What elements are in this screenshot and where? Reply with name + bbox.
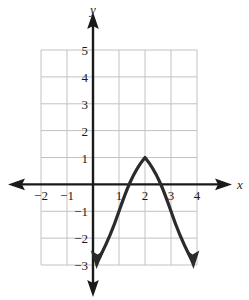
y-tick-label-minus3: −3 bbox=[74, 258, 88, 273]
x-axis-label: x bbox=[236, 177, 243, 192]
figure-background bbox=[0, 0, 249, 300]
x-tick-label-3: 3 bbox=[168, 188, 175, 203]
coordinate-plane-figure: −2 −1 1 2 3 4 5 4 3 2 1 −1 −2 −3 y x bbox=[0, 0, 249, 300]
y-tick-label-minus2: −2 bbox=[74, 231, 88, 246]
y-tick-label-3: 3 bbox=[82, 97, 89, 112]
y-tick-label-5: 5 bbox=[82, 43, 89, 58]
x-tick-label-minus2: −2 bbox=[34, 188, 48, 203]
x-tick-label-4: 4 bbox=[194, 188, 201, 203]
x-tick-label-minus1: −1 bbox=[60, 188, 74, 203]
y-tick-label-1: 1 bbox=[82, 151, 89, 166]
y-axis-label: y bbox=[88, 2, 96, 17]
y-tick-label-minus1: −1 bbox=[74, 204, 88, 219]
x-tick-label-2: 2 bbox=[142, 188, 149, 203]
y-tick-label-2: 2 bbox=[82, 124, 89, 139]
y-tick-label-4: 4 bbox=[82, 70, 89, 85]
x-tick-label-1: 1 bbox=[116, 188, 123, 203]
